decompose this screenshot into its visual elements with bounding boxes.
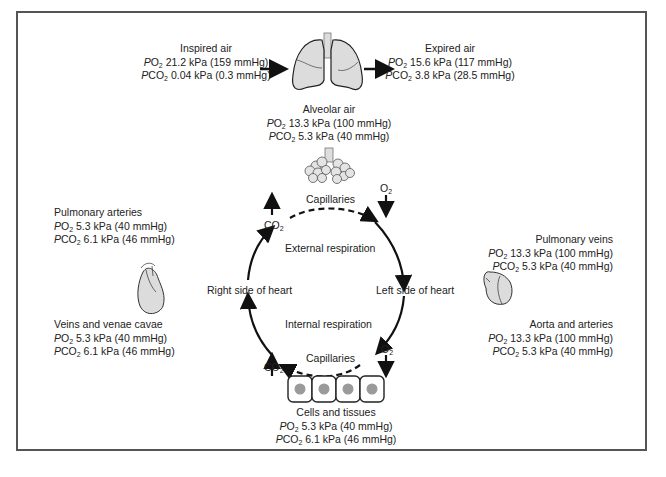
co2-label-top: CO2 (264, 219, 284, 231)
pco2-line: PCO2 5.3 kPa (40 mmHg) (267, 130, 392, 144)
o2-label-bottom: O2 (381, 343, 393, 355)
heart-left-icon (484, 272, 512, 305)
po2-line: PO2 13.3 kPa (100 mmHg) (267, 117, 392, 131)
o2-label-top: O2 (380, 182, 392, 194)
pulmonary-arteries-label: Pulmonary arteries PO2 5.3 kPa (40 mmHg)… (54, 206, 175, 247)
po2-line: PO2 5.3 kPa (40 mmHg) (54, 220, 175, 234)
po2-line: PO2 15.6 kPa (117 mmHg) (385, 56, 514, 70)
pulmonary-veins-label: Pulmonary veins PO2 13.3 kPa (100 mmHg) … (488, 233, 613, 274)
pco2-line: PCO2 6.1 kPa (46 mmHg) (276, 433, 397, 447)
node-title: Inspired air (141, 42, 270, 56)
capillaries-bottom-path (282, 365, 360, 376)
inspired-air-label: Inspired air PO2 21.2 kPa (159 mmHg) PCO… (141, 42, 270, 83)
right-heart-label: Right side of heart (207, 284, 292, 296)
capillaries-top-path (290, 208, 375, 220)
node-title: Aorta and arteries (488, 318, 613, 332)
pco2-line: PCO2 0.04 kPa (0.3 mmHg) (141, 69, 270, 83)
cells-icon (288, 376, 384, 402)
po2-line: PO2 5.3 kPa (40 mmHg) (276, 420, 397, 434)
lungs-icon (293, 33, 363, 89)
capillaries-top-label: Capillaries (306, 193, 355, 205)
expired-air-label: Expired air PO2 15.6 kPa (117 mmHg) PCO2… (385, 42, 514, 83)
internal-respiration-label: Internal respiration (285, 318, 372, 330)
left-heart-label: Left side of heart (376, 284, 454, 296)
node-title: Pulmonary arteries (54, 206, 175, 220)
heart-right-icon (138, 263, 164, 313)
node-title: Alveolar air (267, 103, 392, 117)
alveolar-air-label: Alveolar air PO2 13.3 kPa (100 mmHg) PCO… (267, 103, 392, 144)
pco2-line: PCO2 3.8 kPa (28.5 mmHg) (385, 69, 514, 83)
po2-line: PO2 13.3 kPa (100 mmHg) (488, 247, 613, 261)
aorta-arteries-label: Aorta and arteries PO2 13.3 kPa (100 mmH… (488, 318, 613, 359)
node-title: Veins and venae cavae (54, 318, 175, 332)
alveoli-icon (305, 148, 355, 184)
po2-line: PO2 13.3 kPa (100 mmHg) (488, 332, 613, 346)
cells-tissues-label: Cells and tissues PO2 5.3 kPa (40 mmHg) … (276, 406, 397, 447)
co2-label-bottom: CO2 (264, 361, 284, 373)
external-respiration-label: External respiration (285, 242, 375, 254)
node-title: Cells and tissues (276, 406, 397, 420)
pco2-line: PCO2 5.3 kPa (40 mmHg) (488, 345, 613, 359)
pco2-line: PCO2 6.1 kPa (46 mmHg) (54, 233, 175, 247)
po2-line: PO2 21.2 kPa (159 mmHg) (141, 56, 270, 70)
veins-venae-cavae-label: Veins and venae cavae PO2 5.3 kPa (40 mm… (54, 318, 175, 359)
pco2-line: PCO2 5.3 kPa (40 mmHg) (488, 260, 613, 274)
capillaries-bottom-label: Capillaries (306, 352, 355, 364)
node-title: Expired air (385, 42, 514, 56)
pco2-line: PCO2 6.1 kPa (46 mmHg) (54, 345, 175, 359)
node-title: Pulmonary veins (488, 233, 613, 247)
po2-line: PO2 5.3 kPa (40 mmHg) (54, 332, 175, 346)
